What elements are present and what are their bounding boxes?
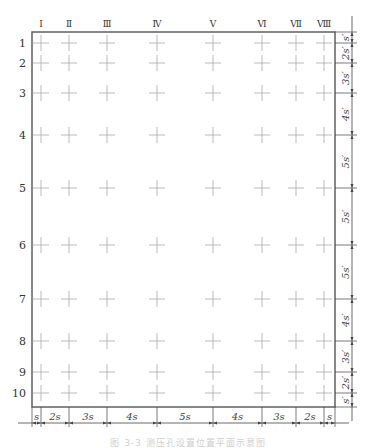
plus-marker-icon [33,55,49,71]
plus-marker-icon [254,333,270,349]
plus-marker-icon [316,364,332,380]
plus-marker-icon [99,333,115,349]
plus-marker-icon [149,180,165,196]
right-dimension-line: s′2s′3s′4s′5s′5s′5s′4s′3s′2s′s′ [335,16,357,421]
right-dimension-label: 5s′ [340,154,351,168]
plus-marker-icon [61,291,77,307]
plus-marker-icon [288,385,304,401]
measurement-grid-diagram: ⅠⅡⅢⅣⅤⅥⅦⅧ 12345678910 s2s3s4s5s4s3s2ss s′… [0,0,376,448]
column-label: Ⅷ [316,19,331,29]
plus-marker-icon [205,364,221,380]
right-dimension-label: 2s′ [340,45,351,60]
plus-marker-icon [205,291,221,307]
row-label: 2 [19,57,26,70]
row-label: 5 [19,182,26,195]
plus-marker-icon [316,180,332,196]
arrowhead-icon [213,422,217,425]
plus-marker-icon [99,364,115,380]
plus-marker-icon [99,237,115,253]
arrowhead-icon [351,245,354,249]
plus-marker-icon [205,237,221,253]
arrowhead-icon [292,422,296,425]
plus-marker-icon [61,364,77,380]
bottom-dimension-label: 5s [179,411,191,422]
plus-marker-icon [149,333,165,349]
plus-marker-icon [33,291,49,307]
bottom-dimension-label: 3s [82,411,94,422]
arrowhead-icon [157,422,161,425]
plus-marker-icon [288,180,304,196]
plus-marker-icon [61,385,77,401]
arrowhead-icon [351,89,354,93]
column-label: Ⅰ [39,19,43,29]
plus-marker-icon [99,127,115,143]
plus-marker-icon [254,85,270,101]
arrowhead-icon [65,422,69,425]
plus-marker-icon [254,180,270,196]
plus-marker-icon [149,291,165,307]
plus-marker-icon [99,180,115,196]
plus-marker-icon [316,333,332,349]
right-dimension-label: s′ [340,33,351,41]
plus-marker-icon [61,55,77,71]
plus-marker-icon [288,364,304,380]
right-dimension-label: 3s′ [340,349,351,363]
plus-marker-icon [288,237,304,253]
bottom-dimension-label: s [34,411,39,422]
plus-marker-icon [316,85,332,101]
arrowhead-icon [262,422,266,425]
right-dimension-label: 5s′ [340,264,351,278]
plus-marker-icon [316,127,332,143]
right-dimension-label: 4s′ [340,312,351,327]
column-label: Ⅱ [66,19,72,29]
row-labels: 12345678910 [12,37,26,400]
arrowhead-icon [296,422,300,425]
plus-marker-icon [254,385,270,401]
column-label: Ⅶ [289,19,302,29]
arrowhead-icon [351,188,354,192]
bottom-dimension-label: 2s [48,411,61,422]
arrowhead-icon [107,422,111,425]
plus-marker-icon [288,333,304,349]
plus-marker-icon [61,85,77,101]
plus-marker-icon [61,35,77,51]
arrowhead-icon [351,93,354,97]
right-dimension-label: 2s′ [340,375,351,390]
plus-marker-icon [33,180,49,196]
arrowhead-icon [351,295,354,299]
arrowhead-icon [351,368,354,372]
arrowhead-icon [351,184,354,188]
plus-marker-icon [254,55,270,71]
arrowhead-icon [351,131,354,135]
arrowhead-icon [153,422,157,425]
plus-marker-icon [149,385,165,401]
row-label: 8 [19,335,26,348]
column-label: Ⅵ [256,19,266,29]
right-dimension-label: 3s′ [340,70,351,84]
plus-marker-icon [61,180,77,196]
arrowhead-icon [209,422,213,425]
row-label: 10 [12,387,26,400]
plus-marker-icon [288,85,304,101]
arrowhead-icon [351,135,354,139]
bottom-dimension-label: 4s [231,411,244,422]
plus-marker-icon [254,364,270,380]
plus-marker-icon [149,364,165,380]
right-dimension-label: s′ [340,396,351,404]
plus-markers [33,35,332,401]
plus-marker-icon [316,291,332,307]
arrowhead-icon [320,422,324,425]
plus-marker-icon [33,127,49,143]
plus-marker-icon [61,333,77,349]
plus-marker-icon [205,55,221,71]
arrowhead-icon [351,241,354,245]
column-label: Ⅴ [209,19,217,29]
grid-border [32,32,335,407]
bottom-dimension-label: 2s [303,411,316,422]
bottom-dimension-label: 3s [273,411,285,422]
row-label: 6 [19,239,26,252]
plus-marker-icon [254,237,270,253]
plus-marker-icon [33,333,49,349]
plus-marker-icon [99,85,115,101]
plus-marker-icon [33,364,49,380]
